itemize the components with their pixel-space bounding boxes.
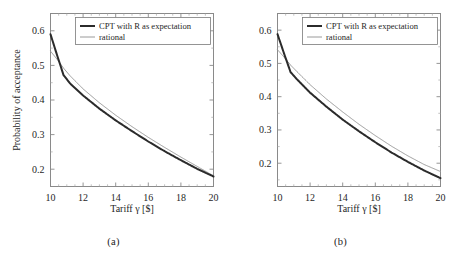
x-axis-tick-labels: 101214161820 [273,192,446,203]
y-tick-label: 0.5 [259,58,272,69]
subcaption-a: (a) [0,236,227,247]
y-axis-tick-labels: 0.20.30.40.50.6 [32,25,45,174]
legend-label-rational: rational [326,32,353,42]
x-tick-label: 14 [111,192,121,203]
legend: CPT with R as expectation rational [76,18,211,45]
y-tick-label: 0.4 [32,94,45,105]
y-tick-label: 0.4 [259,91,272,102]
figure-container: 101214161820 0.20.30.40.50.6 Tariff γ [$… [0,0,454,253]
legend: CPT with R as expectation rational [303,18,438,45]
x-tick-label: 10 [273,192,283,203]
chart-svg-a: 101214161820 0.20.30.40.50.6 Tariff γ [$… [0,0,227,253]
x-tick-label: 10 [46,192,56,203]
x-tick-label: 16 [370,192,380,203]
x-axis-title: Tariff γ [$] [337,203,381,214]
x-tick-label: 20 [209,192,219,203]
x-tick-label: 12 [305,192,315,203]
x-tick-label: 18 [176,192,186,203]
y-tick-label: 0.2 [32,164,45,175]
x-axis-tick-labels: 101214161820 [46,192,219,203]
legend-label-rational: rational [99,32,126,42]
legend-label-cpt: CPT with R as expectation [326,21,419,31]
y-axis-title: Probability of acceptance [11,49,22,151]
legend-label-cpt: CPT with R as expectation [99,21,192,31]
y-tick-label: 0.3 [32,129,45,140]
y-tick-label: 0.3 [259,124,272,135]
x-tick-label: 20 [436,192,446,203]
x-tick-label: 16 [143,192,153,203]
y-tick-label: 0.6 [259,25,272,36]
chart-panel-b: 101214161820 0.20.30.40.50.6 Tariff γ [$… [227,0,454,253]
subcaption-b: (b) [227,236,454,247]
x-tick-label: 14 [338,192,348,203]
y-axis-tick-labels: 0.20.30.40.50.6 [259,25,272,169]
x-tick-label: 12 [78,192,88,203]
x-axis-title: Tariff γ [$] [110,203,154,214]
chart-svg-b: 101214161820 0.20.30.40.50.6 Tariff γ [$… [227,0,454,253]
chart-panel-a: 101214161820 0.20.30.40.50.6 Tariff γ [$… [0,0,227,253]
y-tick-label: 0.2 [259,158,272,169]
y-tick-label: 0.6 [32,25,45,36]
y-tick-label: 0.5 [32,60,45,71]
x-tick-label: 18 [403,192,413,203]
